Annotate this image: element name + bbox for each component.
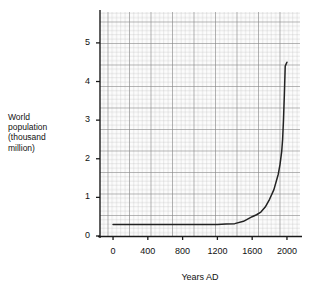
graph-paper-grid: [100, 12, 300, 236]
y-tick-label: 0: [72, 230, 90, 240]
y-tick-label: 2: [72, 153, 90, 163]
y-tick-label: 4: [72, 76, 90, 86]
x-axis-title: Years AD: [100, 272, 300, 282]
y-tick-label: 1: [72, 191, 90, 201]
chart-figure: World population (thousand million) Year…: [0, 0, 312, 296]
y-tick-label: 5: [72, 37, 90, 47]
y-tick-label: 3: [72, 114, 90, 124]
x-tick-label: 2000: [267, 246, 307, 256]
